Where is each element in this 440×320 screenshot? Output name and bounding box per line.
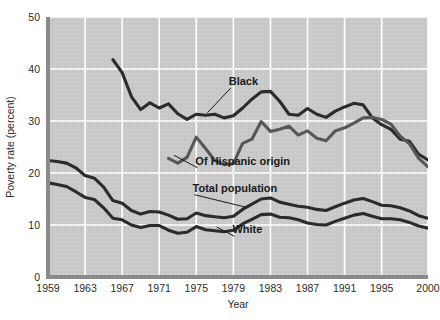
x-axis-title: Year: [227, 298, 249, 310]
annotation-total-population: Total population: [193, 182, 278, 194]
x-tick-label: 1983: [259, 282, 283, 294]
plot-area: [48, 17, 428, 277]
x-tick-label: 1963: [73, 282, 97, 294]
x-tick-label: 1967: [110, 282, 134, 294]
y-tick-label: 40: [28, 63, 40, 75]
y-axis-title: Poverty rate (percent): [4, 96, 16, 198]
y-tick-label: 20: [28, 167, 40, 179]
x-tick-label: 1975: [185, 282, 209, 294]
y-tick-label: 50: [28, 11, 40, 23]
chart-canvas: 01020304050 1959196319671971197519791983…: [0, 0, 440, 320]
poverty-rate-line-chart: 01020304050 1959196319671971197519791983…: [0, 0, 440, 320]
annotation-of-hispanic-origin: Of Hispanic origin: [195, 155, 290, 167]
x-tick-label: 1979: [222, 282, 246, 294]
x-tick-label: 1991: [333, 282, 357, 294]
x-tick-label: 1971: [148, 282, 172, 294]
x-tick-label: 2000: [416, 282, 440, 294]
x-tick-label: 1995: [370, 282, 394, 294]
x-tick-label: 1987: [296, 282, 320, 294]
x-tick-label: 1959: [36, 282, 60, 294]
annotation-black: Black: [229, 75, 259, 87]
y-tick-label: 30: [28, 115, 40, 127]
annotation-white: White: [232, 223, 262, 235]
y-tick-label: 10: [28, 219, 40, 231]
